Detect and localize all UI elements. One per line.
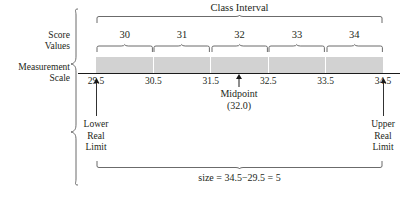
interval-band-segment-31 <box>154 57 212 73</box>
lower-real-limit-line1: Lower <box>57 119 135 131</box>
lower-real-limit-line2: Real <box>57 131 135 143</box>
midpoint-caption: Midpoint (32.0) <box>180 88 298 111</box>
midpoint-label: Midpoint <box>180 88 298 100</box>
row-label-score-values-line2: Values <box>0 41 70 52</box>
score-value-1: 31 <box>153 28 210 42</box>
interval-band-segment-33 <box>269 57 327 73</box>
score-value-2: 32 <box>211 28 268 42</box>
row-label-score-values-line1: Score <box>0 30 70 41</box>
score-value-0: 30 <box>96 28 153 42</box>
row-label-measurement-scale-line2: Scale <box>0 73 70 84</box>
size-equation: size = 34.5−29.5 = 5 <box>96 172 383 184</box>
score-value-brace-4 <box>326 44 383 53</box>
score-value-4: 34 <box>326 28 383 42</box>
upper-real-limit-line3: Limit <box>344 142 414 154</box>
outer-grouping-brace <box>70 8 80 186</box>
class-interval-title: Class Interval <box>96 2 383 14</box>
axis-tick-1: 30.5 <box>136 76 170 87</box>
score-value-brace-2 <box>211 44 268 53</box>
row-label-measurement-scale-line1: Measurement <box>0 62 70 73</box>
axis-tick-4: 33.5 <box>309 76 343 87</box>
lower-real-limit-label: Lower Real Limit <box>57 119 135 154</box>
row-label-score-values: Score Values <box>0 30 70 52</box>
lower-real-limit-line3: Limit <box>57 142 135 154</box>
class-interval-brace <box>96 15 383 24</box>
interval-band <box>96 57 383 73</box>
axis-tick-2: 31.5 <box>194 76 228 87</box>
score-value-brace-1 <box>153 44 210 53</box>
upper-real-limit-line2: Real <box>344 131 414 143</box>
size-brace <box>96 161 383 170</box>
score-value-brace-3 <box>268 44 325 53</box>
score-value-braces <box>96 44 383 53</box>
upper-real-limit-line1: Upper <box>344 119 414 131</box>
row-label-measurement-scale: Measurement Scale <box>0 62 70 84</box>
class-interval-figure: Score Values Measurement Scale Class Int… <box>0 0 414 199</box>
axis-tick-3: 32.5 <box>251 76 285 87</box>
interval-band-segment-30 <box>96 57 154 73</box>
upper-real-limit-label: Upper Real Limit <box>344 119 414 154</box>
score-value-3: 33 <box>268 28 325 42</box>
score-values-row: 30 31 32 33 34 <box>96 28 383 42</box>
midpoint-arrow-icon <box>234 74 244 87</box>
interval-band-segment-32 <box>211 57 269 73</box>
upper-real-limit-arrow-icon <box>379 78 388 116</box>
lower-real-limit-arrow-icon <box>92 78 101 116</box>
score-value-brace-0 <box>96 44 153 53</box>
interval-band-segment-34 <box>326 57 383 73</box>
midpoint-value: (32.0) <box>180 100 298 112</box>
